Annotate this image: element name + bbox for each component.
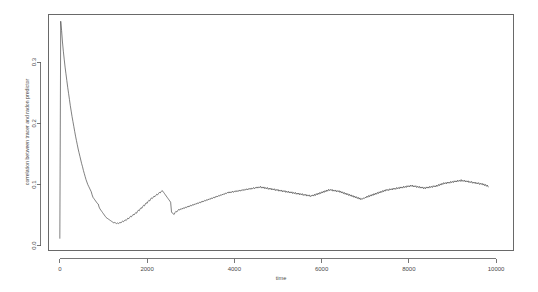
y-tick-label: 0.3 [32, 57, 38, 66]
series-line-correlation [60, 21, 488, 238]
x-axis-ticks [60, 259, 496, 263]
y-axis-ticks [37, 62, 41, 245]
x-tick-label: 0 [58, 266, 62, 272]
y-tick-label: 0.1 [32, 180, 38, 189]
x-tick-label: 6000 [315, 266, 329, 272]
y-tick-label: 0.0 [32, 241, 38, 250]
data-series-group [60, 21, 488, 238]
chart-figure: 0200040006000800010000 0.00.10.20.3 time… [0, 0, 538, 292]
x-tick-label: 2000 [140, 266, 154, 272]
plot-frame [49, 15, 514, 251]
x-axis-tick-labels: 0200040006000800010000 [58, 266, 505, 272]
x-tick-label: 4000 [228, 266, 242, 272]
x-axis-title: time [276, 275, 287, 281]
x-tick-label: 8000 [402, 266, 416, 272]
y-axis-tick-labels: 0.00.10.20.3 [32, 57, 38, 249]
y-axis-title: correlation between tracer and radon pre… [24, 79, 30, 186]
y-tick-label: 0.2 [32, 118, 38, 127]
x-tick-label: 10000 [488, 266, 505, 272]
correlation-time-series-plot: 0200040006000800010000 0.00.10.20.3 time… [0, 0, 538, 292]
